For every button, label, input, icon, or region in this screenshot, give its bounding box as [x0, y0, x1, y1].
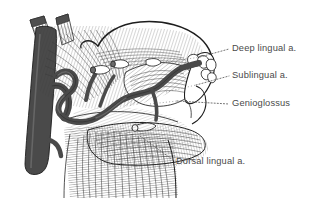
- label-sublingual-artery: Sublingual a.: [232, 70, 288, 80]
- label-dorsal-lingual-artery: Dorsal lingual a.: [176, 156, 245, 166]
- illustration-canvas: Deep lingual a. Sublingual a. Geniogloss…: [0, 0, 318, 207]
- anatomy-figure: Deep lingual a. Sublingual a. Geniogloss…: [0, 0, 318, 207]
- label-genioglossus: Genioglossus: [232, 98, 290, 108]
- label-deep-lingual-artery: Deep lingual a.: [232, 43, 296, 53]
